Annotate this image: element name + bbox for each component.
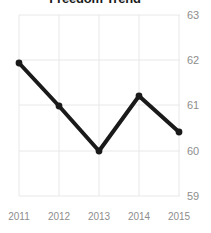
y-axis-tick-label: 59 [187, 190, 199, 202]
x-axis-tick-label: 2014 [119, 211, 159, 222]
x-axis-tick-label: 2012 [39, 211, 79, 222]
data-point-2015 [176, 129, 183, 136]
y-axis-tick-label: 61 [187, 99, 199, 111]
y-axis-tick-label: 62 [187, 54, 199, 66]
y-axis-tick-label: 60 [187, 145, 199, 157]
plot-area [0, 0, 211, 233]
y-axis-tick-label: 63 [187, 9, 199, 21]
data-point-2011 [16, 60, 23, 67]
x-axis-tick-label: 2011 [0, 211, 39, 222]
chart-container: Freedom Trend 63 62 61 60 59 2011 201 [0, 0, 211, 233]
data-point-2012 [56, 103, 63, 110]
x-axis-tick-label: 2013 [79, 211, 119, 222]
data-point-2013 [96, 148, 103, 155]
x-axis-tick-label: 2015 [159, 211, 199, 222]
data-point-2014 [136, 93, 143, 100]
